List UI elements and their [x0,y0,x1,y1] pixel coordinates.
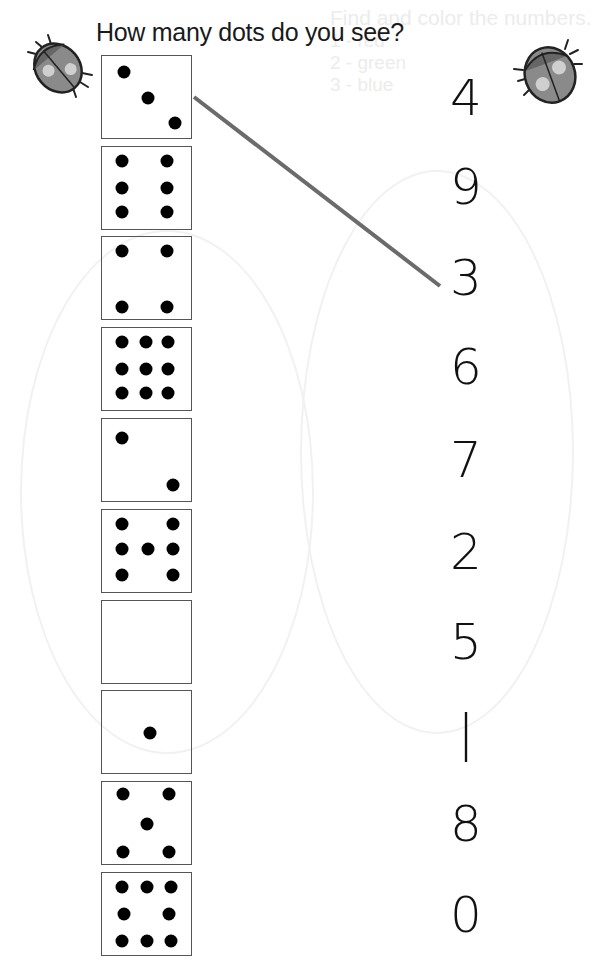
match-line [0,0,609,967]
